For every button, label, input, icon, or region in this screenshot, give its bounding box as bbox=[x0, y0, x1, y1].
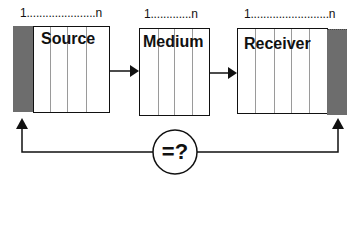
arrowhead-up-icon bbox=[16, 118, 28, 129]
comparison-symbol: =? bbox=[153, 140, 197, 164]
arrowhead-icon bbox=[228, 67, 237, 79]
arrowhead-icon bbox=[130, 65, 139, 77]
arrowhead-up-icon bbox=[332, 118, 344, 129]
feedback-line-left bbox=[22, 128, 153, 152]
feedback-line-right bbox=[197, 128, 338, 152]
